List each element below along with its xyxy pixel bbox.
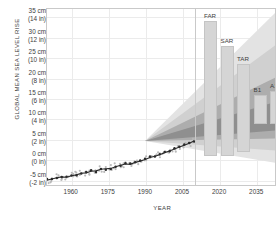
observation-uncertainty-point [50, 180, 52, 182]
y-tick-label-cm: -5 cm [30, 172, 46, 178]
observation-uncertainty-point [192, 138, 194, 140]
observation-uncertainty-point [190, 145, 192, 147]
x-tick-label: 2005 [175, 189, 189, 195]
y-tick-label-in: (8 in) [31, 78, 46, 84]
projection-bar-label-tar: TAR [237, 56, 249, 62]
projection-bar-label-b1: B1 [254, 87, 262, 93]
observation-uncertainty-point [110, 164, 112, 166]
projection-bar-a1b[interactable] [270, 91, 276, 124]
y-tick-label-cm: 10 cm [29, 110, 46, 116]
x-axis-title: YEAR [153, 205, 171, 211]
panel-divider [195, 9, 196, 185]
y-tick-label-in: (-2 in) [29, 180, 46, 186]
observation-uncertainty-point [171, 150, 173, 152]
observation-uncertainty-point [72, 173, 74, 175]
observation-uncertainty-point [137, 163, 139, 165]
y-tick-label-cm: 20 cm [29, 70, 46, 76]
x-tick-label: 1990 [138, 189, 152, 195]
y-axis-tick-labels: 35 cm(14 in)30 cm(12 in)25 cm(10 in)20 c… [14, 4, 46, 194]
observation-uncertainty-point [74, 171, 76, 173]
y-tick-label-cm: 35 cm [29, 8, 46, 14]
y-tick-label-cm: 0 cm [32, 151, 46, 157]
y-tick-label-cm: 25 cm [29, 49, 46, 55]
projection-bar-label-a1b: A1B [270, 83, 276, 89]
projection-bar-label-sar: SAR [221, 38, 234, 44]
y-tick-label-in: (0 in) [31, 159, 46, 165]
x-tick-label: 2035 [249, 189, 263, 195]
observation-uncertainty-point [175, 151, 177, 153]
y-tick-label-cm: 30 cm [29, 29, 46, 35]
observation-uncertainty-point [105, 166, 107, 168]
observation-uncertainty-point [115, 168, 117, 170]
y-tick-label-cm: 5 cm [32, 131, 46, 137]
projection-bar-b1[interactable] [254, 95, 267, 124]
y-tick-label-in: (12 in) [28, 37, 46, 43]
observation-uncertainty-point [103, 171, 105, 173]
sea-level-rise-figure: GLOBAL MEAN SEA LEVEL RISE 35 cm(14 in)3… [0, 0, 280, 227]
observation-uncertainty-point [145, 155, 147, 157]
projection-bar-far[interactable] [204, 21, 217, 156]
y-tick-label-cm: 15 cm [29, 90, 46, 96]
x-tick-label: 1960 [64, 189, 78, 195]
x-tick-label: 2020 [212, 189, 226, 195]
projection-bar-label-far: FAR [204, 13, 216, 19]
y-tick-label-in: (4 in) [31, 118, 46, 124]
x-tick-label: 1975 [101, 189, 115, 195]
y-tick-label-in: (6 in) [31, 98, 46, 104]
projection-bar-sar[interactable] [221, 46, 234, 156]
observation-uncertainty-point [123, 166, 125, 168]
observation-uncertainty-point [48, 182, 50, 184]
observation-uncertainty-point [114, 162, 116, 164]
y-tick-label-in: (10 in) [28, 57, 46, 63]
observation-uncertainty-point [55, 173, 57, 175]
observation-uncertainty-point [182, 146, 184, 148]
y-tick-label-in: (2 in) [31, 139, 46, 145]
observation-uncertainty-point [179, 148, 181, 150]
observed-trend-line [47, 141, 194, 180]
observation-uncertainty-point [159, 156, 161, 158]
y-tick-label-in: (14 in) [28, 16, 46, 22]
observation-uncertainty-point [99, 165, 101, 167]
plot-area: FARSARTARB1A1BA2 [46, 8, 276, 186]
observation-uncertainty-point [88, 174, 90, 176]
x-axis-tick-labels: 196019751990200520202035 [46, 189, 276, 201]
observation-uncertainty-point [101, 171, 103, 173]
observation-uncertainty-point [79, 170, 81, 172]
projection-bar-tar[interactable] [237, 64, 250, 152]
observation-uncertainty-point [84, 174, 86, 176]
observation-uncertainty-point [130, 165, 132, 167]
observation-uncertainty-point [60, 179, 62, 181]
observation-uncertainty-point [57, 174, 59, 176]
